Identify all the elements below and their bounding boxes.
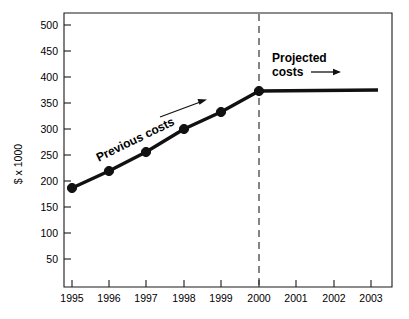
x-tick-label: 2003 — [359, 292, 383, 304]
y-tick-label: 400 — [40, 71, 58, 83]
cost-trend-chart: 500 450 400 350 300 250 200 150 100 50 $… — [0, 0, 409, 319]
data-point-1999 — [216, 107, 225, 116]
projected-costs-line — [259, 90, 378, 91]
chart-canvas: 500 450 400 350 300 250 200 150 100 50 $… — [0, 0, 409, 319]
x-tick-label: 2000 — [247, 292, 271, 304]
x-tick-label: 2001 — [284, 292, 308, 304]
x-tick-label: 1997 — [134, 292, 158, 304]
data-point-1995 — [67, 183, 76, 192]
y-tick-label: 50 — [46, 253, 58, 265]
x-tick-label: 1998 — [172, 292, 196, 304]
projected-costs-label-line2: costs — [272, 65, 304, 79]
y-tick-label: 200 — [40, 175, 58, 187]
x-tick-label: 1995 — [60, 292, 84, 304]
x-tick-label: 2002 — [322, 292, 346, 304]
y-tick-label: 300 — [40, 123, 58, 135]
x-tick-label: 1999 — [209, 292, 233, 304]
data-point-2000 — [254, 86, 263, 95]
x-tick-label: 1996 — [97, 292, 121, 304]
y-axis-title: $ x 1000 — [12, 144, 24, 184]
y-tick-label: 350 — [40, 97, 58, 109]
y-tick-label: 250 — [40, 149, 58, 161]
data-point-1997 — [141, 147, 150, 156]
x-axis-tick-labels: 1995 1996 1997 1998 1999 2000 2001 2002 … — [60, 292, 383, 304]
y-tick-label: 100 — [40, 227, 58, 239]
y-tick-label: 150 — [40, 201, 58, 213]
y-tick-label: 500 — [40, 19, 58, 31]
data-point-1996 — [104, 166, 113, 175]
chart-background — [0, 0, 409, 319]
projected-costs-label-line1: Projected — [272, 51, 327, 65]
y-tick-label: 450 — [40, 45, 58, 57]
data-point-1998 — [179, 124, 188, 133]
